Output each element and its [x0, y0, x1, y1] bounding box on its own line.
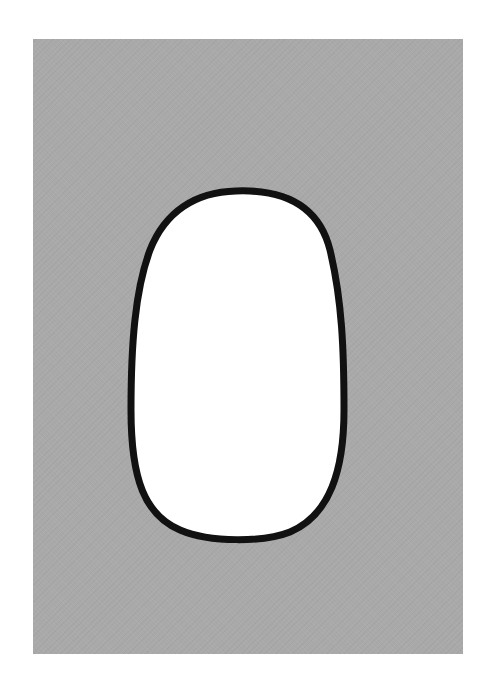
canvas [0, 0, 492, 687]
egg-outline [131, 191, 344, 540]
egg-oval-shape [0, 0, 492, 687]
